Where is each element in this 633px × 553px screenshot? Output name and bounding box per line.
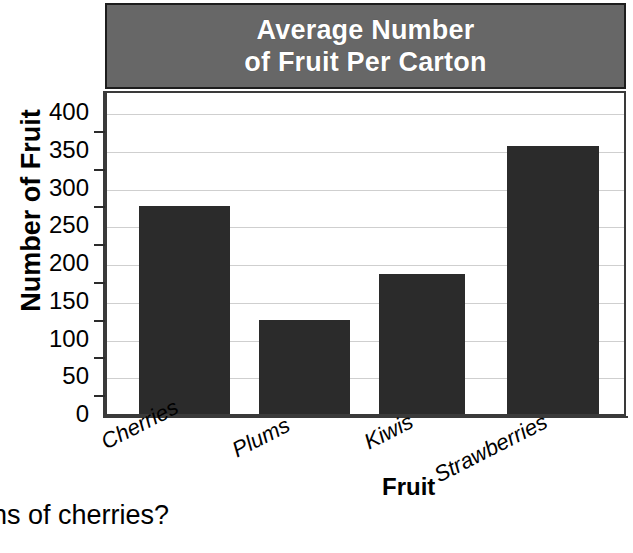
y-axis-tick [94, 320, 105, 322]
bar-kiwis [379, 274, 465, 414]
chart-title-line-2: of Fruit Per Carton [244, 46, 486, 78]
bar-plums [259, 320, 350, 414]
plot-area [105, 91, 626, 416]
bar-cherries [139, 206, 230, 414]
y-tick-label: 100 [31, 327, 89, 351]
y-axis-tick [94, 169, 105, 171]
y-axis-tick [94, 395, 105, 397]
y-axis-title: Number of Fruit [16, 96, 47, 326]
bar-strawberries [507, 146, 599, 414]
y-axis-tick [94, 206, 105, 208]
y-axis-tick [94, 244, 105, 246]
x-category-label-plums: Plums [228, 412, 294, 463]
y-axis-tick [94, 131, 105, 133]
y-axis-tick [94, 282, 105, 284]
chart-title-band: Average Number of Fruit Per Carton [105, 3, 626, 89]
x-axis-title: Fruit [382, 473, 435, 501]
y-axis-tick [94, 357, 105, 359]
gridline [107, 114, 624, 115]
y-tick-label: 0 [31, 402, 89, 426]
question-text-fragment: ns of cherries? [0, 500, 169, 531]
y-axis-line [103, 91, 105, 418]
chart-title-line-1: Average Number [257, 14, 475, 46]
y-tick-label: 50 [31, 364, 89, 388]
x-category-label-strawberries: Strawberries [430, 409, 552, 488]
